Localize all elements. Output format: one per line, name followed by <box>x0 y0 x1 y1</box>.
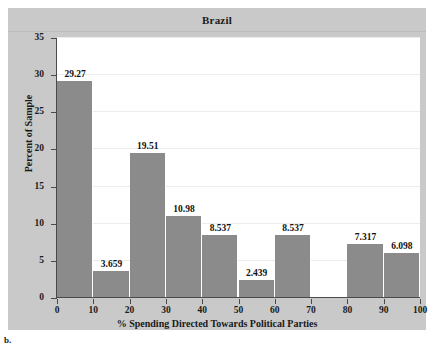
x-tick-mark <box>275 299 276 304</box>
x-tick-mark <box>420 299 421 304</box>
bar <box>384 253 420 298</box>
x-tick-label: 10 <box>78 306 108 316</box>
x-tick-label: 60 <box>260 306 290 316</box>
x-axis-title: % Spending Directed Towards Political Pa… <box>8 318 426 329</box>
bar <box>275 235 311 298</box>
bar-value-label: 10.98 <box>154 204 214 214</box>
chart-title-band: Brazil <box>8 8 426 32</box>
y-tick-label: 25 <box>22 107 44 117</box>
bar-value-label: 6.098 <box>372 241 432 251</box>
bar <box>202 235 238 298</box>
x-tick-mark <box>93 299 94 304</box>
bar-value-label: 2.439 <box>227 268 287 278</box>
y-tick-mark <box>51 112 56 113</box>
x-tick-label: 40 <box>187 306 217 316</box>
x-axis-baseline <box>57 297 420 298</box>
y-tick-mark <box>51 187 56 188</box>
x-tick-mark <box>311 299 312 304</box>
y-tick-mark <box>51 38 56 39</box>
x-tick-mark <box>384 299 385 304</box>
x-tick-label: 100 <box>405 306 434 316</box>
bar-value-label: 29.27 <box>45 69 105 79</box>
y-tick-label: 15 <box>22 182 44 192</box>
x-tick-mark <box>239 299 240 304</box>
y-axis-title: Percent of Sample <box>23 74 34 194</box>
figure-panel: Brazil Percent of Sample 05101520253035 … <box>8 8 426 330</box>
gridline <box>57 37 420 38</box>
y-tick-mark <box>51 261 56 262</box>
y-tick-label: 5 <box>22 256 44 266</box>
x-tick-mark <box>202 299 203 304</box>
gridline <box>57 148 420 149</box>
figure-caption: b. <box>4 335 11 345</box>
y-tick-mark <box>51 149 56 150</box>
gridline <box>57 74 420 75</box>
x-tick-mark <box>130 299 131 304</box>
gridline <box>57 111 420 112</box>
x-tick-label: 50 <box>224 306 254 316</box>
x-tick-mark <box>57 299 58 304</box>
y-tick-label: 35 <box>22 33 44 43</box>
y-tick-label: 0 <box>22 293 44 303</box>
y-tick-label: 30 <box>22 70 44 80</box>
x-tick-label: 20 <box>115 306 145 316</box>
bar <box>93 271 129 298</box>
bar-value-label: 8.537 <box>263 223 323 233</box>
y-tick-mark <box>51 224 56 225</box>
y-tick-label: 10 <box>22 219 44 229</box>
bar-value-label: 8.537 <box>190 223 250 233</box>
x-tick-label: 70 <box>296 306 326 316</box>
bar <box>239 280 275 298</box>
x-tick-mark <box>166 299 167 304</box>
x-tick-label: 90 <box>369 306 399 316</box>
page-title: Brazil <box>202 14 232 26</box>
gridline <box>57 186 420 187</box>
x-tick-label: 80 <box>332 306 362 316</box>
bar <box>347 244 383 298</box>
x-tick-label: 30 <box>151 306 181 316</box>
bar <box>130 153 166 298</box>
y-tick-mark <box>51 298 56 299</box>
bar-value-label: 19.51 <box>118 141 178 151</box>
x-tick-label: 0 <box>42 306 72 316</box>
bar-value-label: 3.659 <box>81 259 141 269</box>
y-tick-label: 20 <box>22 144 44 154</box>
x-tick-mark <box>347 299 348 304</box>
